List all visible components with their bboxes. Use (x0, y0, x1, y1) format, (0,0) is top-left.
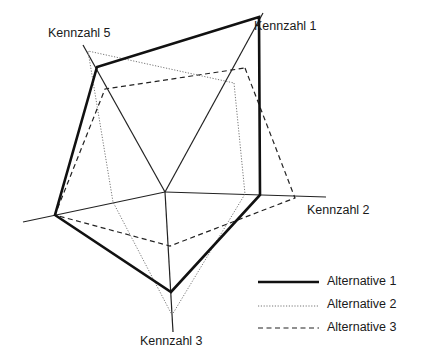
legend-label-alternative-2: Alternative 2 (327, 297, 396, 311)
series-alternative-1 (55, 17, 260, 292)
legend-label-alternative-1: Alternative 1 (327, 274, 396, 288)
series-alternative-2 (88, 51, 245, 315)
axis-label-kennzahl-3: Kennzahl 3 (140, 334, 203, 348)
axis-kennzahl-3 (165, 192, 173, 332)
axis-kennzahl-1 (165, 13, 263, 192)
axis-label-kennzahl-1: Kennzahl 1 (254, 19, 317, 33)
axis-label-kennzahl-2: Kennzahl 2 (307, 203, 370, 217)
axis-kennzahl-4 (23, 192, 165, 222)
legend-label-alternative-3: Alternative 3 (327, 320, 396, 334)
axis-kennzahl-5 (83, 45, 165, 192)
axis-kennzahl-2 (165, 192, 326, 197)
axis-label-kennzahl-5: Kennzahl 5 (48, 26, 111, 40)
axes (23, 13, 326, 332)
